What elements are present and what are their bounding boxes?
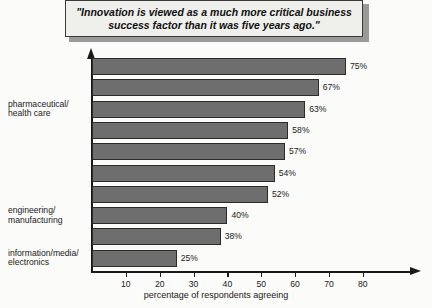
- x-tick-label: 30: [181, 279, 207, 289]
- x-tick-mark: [295, 271, 296, 277]
- category-label: pharmaceutical/ health care: [8, 100, 90, 119]
- x-tick-label: 50: [248, 279, 274, 289]
- quote-text: "Innovation is viewed as a much more cri…: [68, 6, 360, 32]
- bar: [92, 228, 221, 245]
- bar: [92, 79, 319, 96]
- bar: [92, 186, 268, 203]
- bar-value-label: 40%: [231, 210, 248, 220]
- bar-value-label: 25%: [181, 253, 198, 263]
- bar: [92, 101, 305, 118]
- chart-page: "Innovation is viewed as a much more cri…: [0, 0, 432, 308]
- category-label: information/media/ electronics: [8, 249, 90, 268]
- x-tick-mark: [160, 271, 161, 277]
- category-label: engineering/ manufacturing: [8, 206, 90, 225]
- bar-value-label: 38%: [225, 231, 242, 241]
- bar: [92, 122, 288, 139]
- bar-value-label: 57%: [289, 146, 306, 156]
- x-tick-mark: [363, 271, 364, 277]
- chart-plot-area: financial services75%consumer67%pharmace…: [0, 47, 432, 277]
- bar: [92, 250, 177, 267]
- bar-value-label: 63%: [309, 104, 326, 114]
- bar-value-label: 75%: [350, 61, 367, 71]
- x-tick-mark: [126, 271, 127, 277]
- x-axis-title: percentage of respondents agreeing: [0, 290, 432, 300]
- x-tick-label: 80: [350, 279, 376, 289]
- x-tick-mark: [194, 271, 195, 277]
- bar-value-label: 54%: [279, 168, 296, 178]
- x-tick-mark: [329, 271, 330, 277]
- bar: [92, 165, 275, 182]
- bar: [92, 58, 346, 75]
- x-tick-label: 70: [316, 279, 342, 289]
- x-tick-mark: [261, 271, 262, 277]
- x-tick-label: 60: [282, 279, 308, 289]
- x-tick-label: 10: [113, 279, 139, 289]
- x-tick-label: 20: [147, 279, 173, 289]
- bar: [92, 207, 227, 224]
- quote-callout: "Innovation is viewed as a much more cri…: [65, 0, 363, 37]
- x-tick-label: 40: [214, 279, 240, 289]
- x-tick-mark: [227, 271, 228, 277]
- bar-value-label: 67%: [323, 82, 340, 92]
- x-axis-arrow-icon: [410, 267, 421, 275]
- bar-value-label: 52%: [272, 189, 289, 199]
- bar-value-label: 58%: [292, 125, 309, 135]
- bar: [92, 143, 285, 160]
